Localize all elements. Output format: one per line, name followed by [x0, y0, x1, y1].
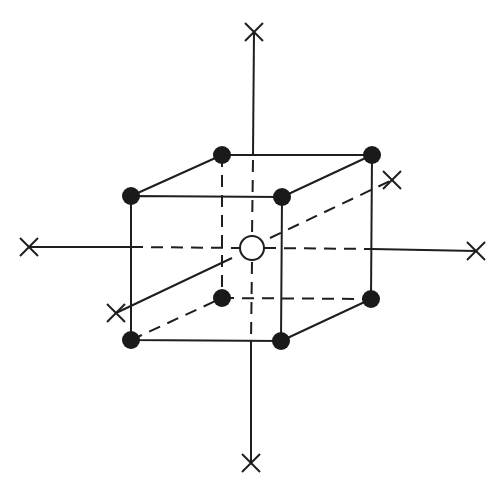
corner-node [272, 332, 290, 350]
center-site [240, 236, 264, 260]
corner-node [213, 146, 231, 164]
cube-lattice-diagram [0, 0, 500, 490]
corner-node [273, 188, 291, 206]
corner-node [213, 289, 231, 307]
x-cross-icon-depth-front [107, 304, 125, 322]
corner-node [122, 331, 140, 349]
corner-node [122, 187, 140, 205]
corner-node [363, 146, 381, 164]
corner-node [362, 290, 380, 308]
x-cross-icon-depth-back [383, 171, 401, 189]
